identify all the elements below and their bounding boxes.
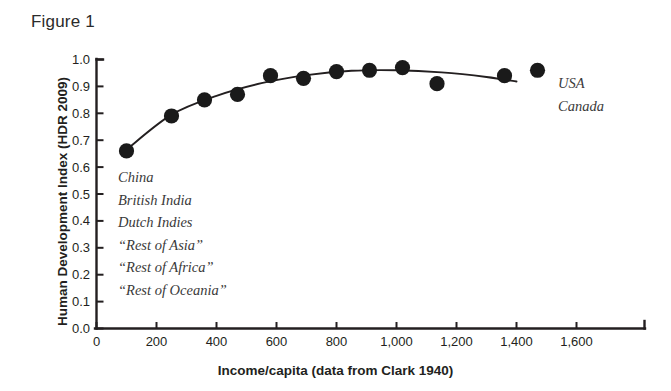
annotation-label: Canada — [558, 98, 604, 114]
y-tick-label: 0.6 — [72, 160, 90, 175]
data-point — [395, 60, 410, 75]
data-point — [197, 92, 212, 107]
x-tick-label: 0 — [93, 334, 100, 349]
x-tick-label: 200 — [146, 334, 168, 349]
x-tick-label: 600 — [266, 334, 288, 349]
data-point — [429, 76, 444, 91]
annotation-label: “Rest of Asia” — [118, 237, 203, 253]
annotation-label: USA — [558, 75, 585, 91]
data-point — [164, 108, 179, 123]
data-point — [530, 63, 545, 78]
data-point — [362, 63, 377, 78]
data-point — [296, 71, 311, 86]
data-point — [119, 143, 134, 158]
data-point — [263, 68, 278, 83]
x-tick-label: 400 — [206, 334, 228, 349]
y-tick-label: 0.2 — [72, 267, 90, 282]
y-tick-label: 1.0 — [72, 52, 90, 67]
data-point — [329, 64, 344, 79]
data-point — [497, 68, 512, 83]
x-tick-label: 800 — [326, 334, 348, 349]
annotation-label: China — [118, 169, 153, 185]
annotation-label: Dutch Indies — [117, 214, 193, 230]
annotation-label: “Rest of Africa” — [118, 259, 214, 275]
x-tick-label: 1,000 — [380, 334, 413, 349]
y-tick-label: 0.5 — [72, 187, 90, 202]
y-tick-label: 0.9 — [72, 79, 90, 94]
y-tick-label: 0.8 — [72, 106, 90, 121]
x-axis-ticks: 02004006008001,0001,2001,4001,600 — [93, 322, 593, 349]
x-tick-label: 1,600 — [560, 334, 593, 349]
figure-container: Figure 1 Human Development Index (HDR 20… — [0, 0, 671, 391]
data-point — [230, 87, 245, 102]
x-tick-label: 1,400 — [500, 334, 533, 349]
right-annotation-group: USACanada — [558, 75, 604, 114]
trend-line — [127, 70, 517, 150]
annotation-label: British India — [118, 192, 192, 208]
annotation-label: “Rest of Oceania” — [118, 282, 227, 298]
y-tick-label: 0.1 — [72, 294, 90, 309]
x-tick-label: 1,200 — [440, 334, 473, 349]
y-tick-label: 0.4 — [72, 213, 90, 228]
y-axis-ticks: 0.00.10.20.30.40.50.60.70.80.91.0 — [72, 52, 104, 336]
left-annotation-group: ChinaBritish IndiaDutch Indies“Rest of A… — [117, 169, 227, 298]
y-tick-label: 0.3 — [72, 240, 90, 255]
chart-plot-area: 0.00.10.20.30.40.50.60.70.80.91.0 020040… — [0, 0, 671, 391]
y-tick-label: 0.7 — [72, 133, 90, 148]
y-tick-label: 0.0 — [72, 321, 90, 336]
